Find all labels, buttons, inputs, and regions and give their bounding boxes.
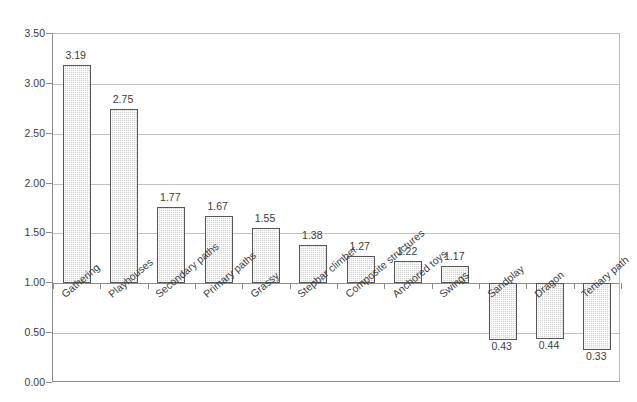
y-axis-tick-label: 3.00 (1, 78, 45, 88)
gridline (53, 333, 619, 334)
bar-value-label: 1.38 (290, 230, 334, 241)
x-axis-tick-mark (621, 283, 622, 289)
gridline (53, 84, 619, 85)
y-axis-tick-label: 1.50 (1, 227, 45, 237)
y-axis-tick-label: 2.00 (1, 178, 45, 188)
bar (110, 109, 138, 284)
bar-value-label: 0.44 (527, 340, 571, 351)
bar-value-label: 0.43 (480, 341, 524, 352)
bar (63, 65, 91, 283)
y-axis-tick-label: 2.50 (1, 128, 45, 138)
y-axis-tick-label: 0.50 (1, 327, 45, 337)
y-axis-tick-label: 1.00 (1, 277, 45, 287)
bar-value-label: 1.77 (148, 192, 192, 203)
bar-value-label: 2.75 (101, 94, 145, 105)
bar-value-label: 1.67 (196, 201, 240, 212)
bar-value-label: 1.55 (243, 213, 287, 224)
baseline-rule (53, 283, 619, 284)
y-axis-tick-mark (46, 382, 52, 383)
y-axis-tick-label: 3.50 (1, 28, 45, 38)
bar-value-label: 0.33 (574, 351, 618, 362)
bar-chart: 3.503.002.502.001.501.000.500.00 3.192.7… (0, 0, 637, 402)
bar-value-label: 3.19 (54, 50, 98, 61)
y-axis-tick-label: 0.00 (1, 377, 45, 387)
plot-area (52, 33, 620, 382)
